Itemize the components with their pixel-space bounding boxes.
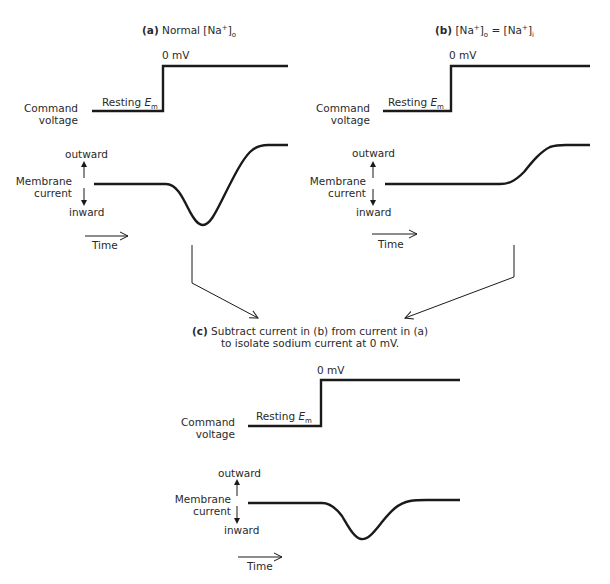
panel-b-title: (b) [Na+]o = [Na+]i: [435, 24, 534, 36]
resting-em-label: Resting Em: [256, 410, 312, 422]
membrane-current-label: Membrane current: [300, 175, 366, 199]
command-text: Command: [0, 102, 78, 114]
resting-text: Resting: [102, 96, 144, 108]
command-text: Command: [160, 416, 235, 428]
title-text: [Na: [455, 24, 473, 36]
current-text: current: [0, 187, 72, 199]
zero-mv-label: 0 mV: [317, 364, 344, 376]
membrane-text: Membrane: [0, 175, 72, 187]
voltage-text: voltage: [0, 114, 78, 126]
zero-mv-label: 0 mV: [162, 49, 189, 61]
title-sub: i: [532, 31, 534, 39]
em-sub: m: [151, 103, 158, 111]
panel-c-current-trace: [248, 500, 460, 539]
panel-b-current-trace: [385, 145, 590, 184]
diagram-graphics: [0, 0, 610, 584]
title-text: Normal [Na: [162, 24, 222, 36]
command-voltage-label: Command voltage: [160, 416, 235, 440]
outward-label: outward: [218, 467, 261, 479]
command-voltage-label: Command voltage: [0, 102, 78, 126]
time-label: Time: [92, 239, 118, 251]
caption-line-1: Subtract current in (b) from current in …: [208, 325, 428, 337]
panel-a-current-trace: [94, 145, 288, 225]
zero-mv-label: 0 mV: [449, 49, 476, 61]
current-text: current: [160, 505, 231, 517]
panel-tag: (c): [192, 325, 208, 337]
caption-line-2: to isolate sodium current at 0 mV.: [180, 337, 440, 349]
resting-text: Resting: [388, 96, 430, 108]
time-label: Time: [378, 238, 404, 250]
current-text: current: [300, 187, 366, 199]
inward-label: inward: [356, 206, 391, 218]
inward-label: inward: [224, 524, 259, 536]
panel-a-title: (a) Normal [Na+]o: [142, 24, 236, 36]
outward-label: outward: [65, 148, 108, 160]
resting-em-label: Resting Em: [102, 96, 158, 108]
panel-tag: (b): [435, 24, 452, 36]
em-sub: m: [437, 103, 444, 111]
time-label: Time: [247, 560, 273, 572]
voltage-text: voltage: [160, 428, 235, 440]
command-voltage-label: Command voltage: [300, 102, 370, 126]
title-sub: o: [232, 31, 236, 39]
em-sub: m: [305, 417, 312, 425]
panel-c-caption: (c) Subtract current in (b) from current…: [180, 325, 440, 349]
command-text: Command: [300, 102, 370, 114]
inward-label: inward: [69, 206, 104, 218]
membrane-text: Membrane: [160, 493, 231, 505]
panel-tag: (a): [142, 24, 159, 36]
membrane-current-label: Membrane current: [160, 493, 231, 517]
connector-arrow-b-to-c: [405, 245, 514, 318]
membrane-current-label: Membrane current: [0, 175, 72, 199]
membrane-text: Membrane: [300, 175, 366, 187]
resting-text: Resting: [256, 410, 298, 422]
title-equals: = [Na: [488, 24, 522, 36]
resting-em-label: Resting Em: [388, 96, 444, 108]
outward-label: outward: [352, 147, 395, 159]
voltage-text: voltage: [300, 114, 370, 126]
connector-arrow-a-to-c: [192, 245, 258, 318]
